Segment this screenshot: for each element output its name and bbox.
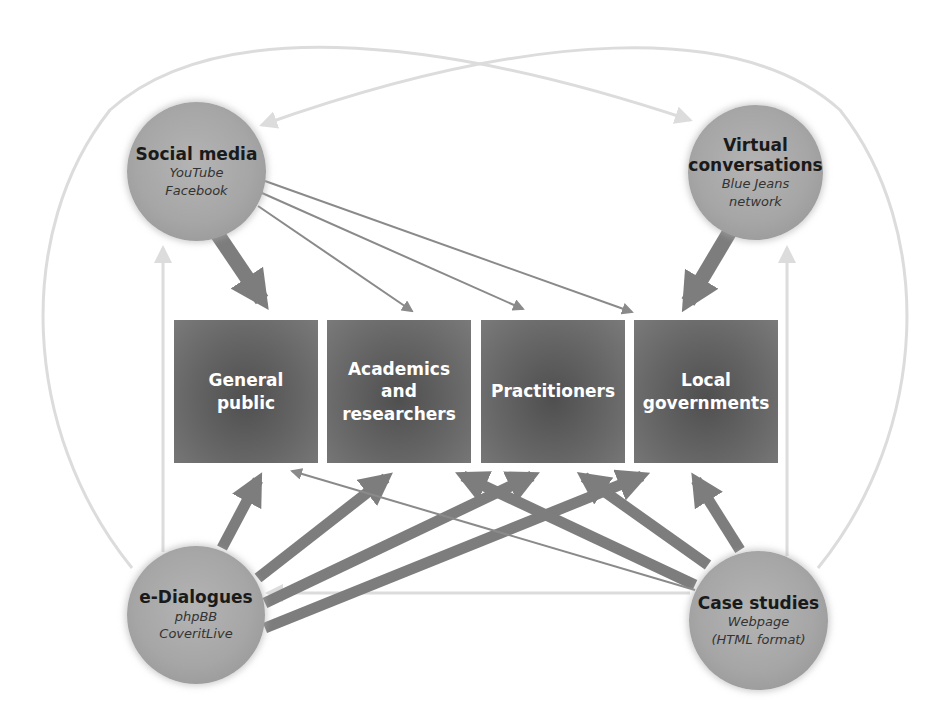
audience-box-academics: Academics and researchers xyxy=(327,320,471,463)
arrow-e-dialogues-to-local-governments xyxy=(265,476,642,628)
channel-title: Social media xyxy=(136,144,258,164)
channel-node-e-dialogues: e-Dialogues phpBB CoveritLive xyxy=(127,546,265,684)
channel-node-case-studies: Case studies Webpage (HTML format) xyxy=(689,551,828,690)
audience-label: Academics and researchers xyxy=(342,358,456,424)
arrow-case-studies-to-practitioners xyxy=(584,477,708,565)
audience-label: Local governments xyxy=(643,369,770,413)
channel-subtitle: phpBB CoveritLive xyxy=(159,608,232,643)
arrow-virtual-to-local-governments xyxy=(688,228,732,302)
medium-arrows xyxy=(222,476,740,628)
channel-node-social-media: Social media YouTube Facebook xyxy=(127,102,266,241)
arrow-e-dialogues-to-general-public xyxy=(222,480,258,548)
audience-box-general-public: General public xyxy=(174,320,318,463)
strong-arrows xyxy=(216,228,732,302)
arrow-social-to-academics xyxy=(258,206,412,311)
arrow-social-to-local-governments xyxy=(265,181,632,312)
audience-label: General public xyxy=(209,369,284,413)
channel-title: Case studies xyxy=(698,593,820,613)
audience-box-practitioners: Practitioners xyxy=(481,320,625,463)
arrow-social-to-practitioners xyxy=(262,193,523,309)
channel-title: e-Dialogues xyxy=(139,587,252,607)
channel-subtitle: Webpage (HTML format) xyxy=(711,613,805,648)
arrow-social-to-general-public xyxy=(216,232,262,300)
channel-node-virtual-conversations: Virtual conversations Blue Jeans network xyxy=(688,105,823,240)
arrow-case-studies-to-local-governments xyxy=(696,480,740,550)
channel-subtitle: YouTube Facebook xyxy=(165,164,227,199)
audience-label: Practitioners xyxy=(491,380,615,402)
channel-title: Virtual conversations xyxy=(688,135,822,176)
audience-box-local-governments: Local governments xyxy=(634,320,778,463)
channel-subtitle: Blue Jeans network xyxy=(722,175,790,210)
